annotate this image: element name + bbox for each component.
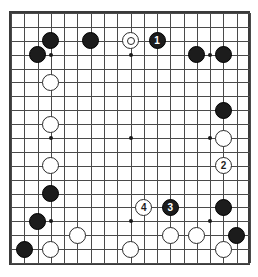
stone-black[interactable]	[215, 102, 232, 119]
stone-move-4[interactable]: 4	[135, 199, 152, 216]
stone-white-marked[interactable]	[122, 32, 139, 49]
stone-white[interactable]	[42, 116, 59, 133]
grid-line-horizontal	[11, 263, 250, 264]
stone-black[interactable]	[29, 46, 46, 63]
grid-line-horizontal	[11, 235, 250, 236]
star-point	[129, 53, 133, 57]
stone-white[interactable]	[215, 130, 232, 147]
stone-black[interactable]	[215, 199, 232, 216]
stone-black[interactable]	[228, 227, 245, 244]
stone-move-2[interactable]: 2	[215, 157, 232, 174]
stone-black[interactable]	[29, 213, 46, 230]
star-point	[49, 219, 53, 223]
star-point	[49, 136, 53, 140]
star-point	[129, 136, 133, 140]
move-number-label: 1	[150, 33, 165, 48]
move-number-label: 3	[163, 200, 178, 215]
stone-white[interactable]	[42, 241, 59, 258]
stone-white[interactable]	[42, 157, 59, 174]
grid-line-horizontal	[11, 13, 250, 14]
stone-black[interactable]	[16, 241, 33, 258]
stone-move-1[interactable]: 1	[149, 32, 166, 49]
stone-black[interactable]	[42, 185, 59, 202]
stone-white[interactable]	[69, 227, 86, 244]
stone-white[interactable]	[162, 227, 179, 244]
move-number-label: 2	[216, 158, 231, 173]
star-point	[208, 53, 212, 57]
grid-line-horizontal	[11, 180, 250, 181]
stone-white[interactable]	[215, 241, 232, 258]
move-number-label: 4	[136, 200, 151, 215]
grid-line-horizontal	[11, 27, 250, 28]
grid-line-vertical	[250, 13, 251, 263]
stone-move-3[interactable]: 3	[162, 199, 179, 216]
grid-line-horizontal	[11, 96, 250, 97]
star-point	[208, 136, 212, 140]
stone-black[interactable]	[82, 32, 99, 49]
stone-white[interactable]	[122, 241, 139, 258]
grid-line-horizontal	[11, 152, 250, 153]
stone-white[interactable]	[42, 74, 59, 91]
stone-black[interactable]	[42, 32, 59, 49]
grid-line-horizontal	[11, 69, 250, 70]
stone-black[interactable]	[215, 46, 232, 63]
star-point	[49, 53, 53, 57]
go-diagram: 1243	[0, 0, 258, 277]
stone-black[interactable]	[188, 46, 205, 63]
go-board[interactable]: 1243	[9, 11, 250, 265]
star-point	[129, 219, 133, 223]
stone-white[interactable]	[188, 227, 205, 244]
star-point	[208, 219, 212, 223]
